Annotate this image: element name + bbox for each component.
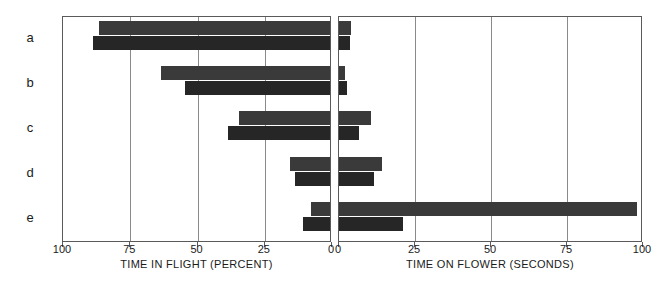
tick-label-right-50: 50 bbox=[470, 243, 510, 255]
bar-left-d-lower bbox=[295, 172, 330, 186]
bar-right-b-upper bbox=[339, 66, 345, 80]
panel-time-in-flight bbox=[62, 16, 331, 242]
x-axis-title-right: TIME ON FLOWER (SECONDS) bbox=[338, 258, 642, 270]
bar-left-a-upper bbox=[99, 21, 330, 35]
gridline-75 bbox=[130, 17, 131, 241]
tick-label-left-50: 50 bbox=[177, 243, 217, 255]
bar-left-b-upper bbox=[161, 66, 330, 80]
bar-right-e-lower bbox=[339, 217, 403, 231]
bar-left-b-lower bbox=[185, 81, 330, 95]
tick-label-right-0: 0 bbox=[318, 243, 358, 255]
bar-left-a-lower bbox=[93, 36, 330, 50]
bar-right-b-lower bbox=[339, 81, 347, 95]
bar-left-c-upper bbox=[239, 111, 330, 125]
panel-time-on-flower bbox=[338, 16, 642, 242]
x-axis-title-left: TIME IN FLIGHT (PERCENT) bbox=[62, 258, 331, 270]
category-label-e: e bbox=[20, 210, 40, 225]
category-label-b: b bbox=[20, 75, 40, 90]
bar-left-d-upper bbox=[290, 157, 330, 171]
bar-left-c-lower bbox=[228, 126, 330, 140]
bar-right-a-lower bbox=[339, 36, 350, 50]
tick-label-right-100: 100 bbox=[622, 243, 659, 255]
bar-right-c-upper bbox=[339, 111, 371, 125]
bar-right-c-lower bbox=[339, 126, 359, 140]
category-label-c: c bbox=[20, 120, 40, 135]
bar-right-e-upper bbox=[339, 202, 637, 216]
bar-right-d-upper bbox=[339, 157, 382, 171]
category-label-d: d bbox=[20, 165, 40, 180]
tick-label-left-100: 100 bbox=[42, 243, 82, 255]
bar-left-e-upper bbox=[311, 202, 330, 216]
bar-right-a-upper bbox=[339, 21, 351, 35]
bar-right-d-lower bbox=[339, 172, 374, 186]
category-label-a: a bbox=[20, 30, 40, 45]
tick-label-right-75: 75 bbox=[546, 243, 586, 255]
chart-figure: abcde 1007550250 0255075100 TIME IN FLIG… bbox=[0, 0, 659, 289]
bar-left-e-lower bbox=[303, 217, 330, 231]
tick-label-left-25: 25 bbox=[244, 243, 284, 255]
gridline-50 bbox=[198, 17, 199, 241]
tick-label-right-25: 25 bbox=[394, 243, 434, 255]
tick-label-left-75: 75 bbox=[109, 243, 149, 255]
